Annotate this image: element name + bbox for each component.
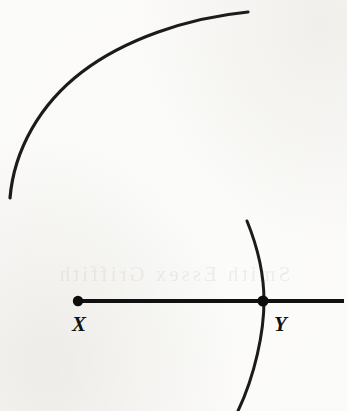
point-dot-y [257, 295, 268, 306]
construction-canvas: X Y [0, 0, 347, 411]
large-compass-arc [10, 12, 248, 198]
geometry-figure: Smith Essex Griffith X Y [0, 0, 347, 411]
small-compass-arc [238, 221, 264, 411]
point-label-y: Y [274, 312, 289, 336]
point-dot-x [73, 296, 83, 306]
point-label-x: X [71, 312, 87, 336]
